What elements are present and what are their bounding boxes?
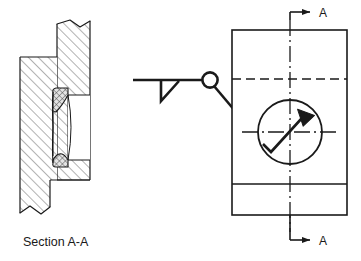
section-caption: Section A-A [23, 235, 89, 249]
insert-outline [53, 92, 54, 163]
drawing-canvas: Section A-A A [0, 0, 361, 261]
plan-view: A A [232, 6, 347, 248]
weld-all-around-circle-icon [202, 72, 217, 87]
engineering-drawing: Section A-A A [0, 0, 361, 261]
section-arrow-bottom-label: A [319, 234, 327, 248]
inner-cavity [68, 95, 90, 160]
section-arrow-top-label: A [319, 6, 327, 20]
